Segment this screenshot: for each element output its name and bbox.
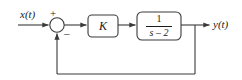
diagram-canvas xyxy=(0,0,242,80)
summing-junction-plus-sign: + xyxy=(50,8,56,19)
input-signal-label: x(t) xyxy=(20,9,35,20)
summing-junction-minus-sign: – xyxy=(64,28,70,39)
transfer-function-expression: 1 s – 2 xyxy=(137,12,181,40)
transfer-function-numerator: 1 xyxy=(157,14,162,25)
gain-block-label: K xyxy=(88,15,118,37)
transfer-function-denominator: s – 2 xyxy=(150,28,169,39)
block-diagram: x(t) + – K 1 s – 2 y(t) xyxy=(0,0,242,80)
output-signal-label: y(t) xyxy=(213,19,228,30)
summing-junction xyxy=(50,18,64,32)
